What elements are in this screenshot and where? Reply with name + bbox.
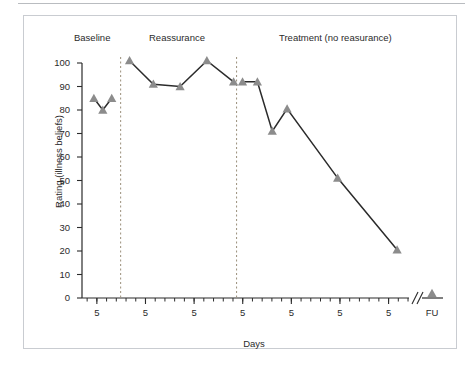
y-tick-label: 90 (48, 81, 70, 92)
data-point-marker (202, 56, 211, 64)
x-tick-label: 5 (87, 307, 107, 318)
y-tick-label: 80 (48, 104, 70, 115)
y-tick-label: 100 (48, 57, 70, 68)
x-tick-label: 5 (184, 307, 204, 318)
axis-group (77, 63, 443, 304)
data-point-marker (283, 104, 292, 112)
y-tick-label: 30 (48, 222, 70, 233)
y-tick-label: 40 (48, 198, 70, 209)
x-tick-label: 5 (135, 307, 155, 318)
x-tick-label-followup: FU (422, 307, 442, 318)
y-tick-label: 0 (48, 292, 70, 303)
data-point-marker (268, 127, 277, 135)
figure-frame: Baseline Reassurance Treatment (no reasu… (23, 15, 457, 349)
data-point-marker (89, 94, 98, 102)
x-tick-label: 5 (330, 307, 350, 318)
data-marker-group (89, 56, 436, 297)
data-point-marker (427, 289, 436, 297)
figure-page: Baseline Reassurance Treatment (no reasu… (0, 0, 473, 366)
y-tick-label: 50 (48, 175, 70, 186)
y-tick-label: 20 (48, 245, 70, 256)
x-tick-label: 5 (379, 307, 399, 318)
chart-plot-area (24, 16, 458, 350)
page-top-rule (18, 3, 465, 4)
y-tick-label: 10 (48, 269, 70, 280)
y-tick-label: 60 (48, 151, 70, 162)
data-line-group (94, 61, 397, 250)
x-tick-label: 5 (233, 307, 253, 318)
data-point-marker (107, 94, 116, 102)
y-tick-label: 70 (48, 128, 70, 139)
x-tick-label: 5 (281, 307, 301, 318)
data-point-marker (125, 56, 134, 64)
phase-divider-group (121, 57, 237, 300)
